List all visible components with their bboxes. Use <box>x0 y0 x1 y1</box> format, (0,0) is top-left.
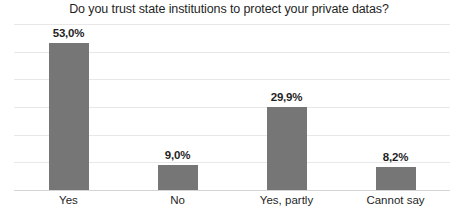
bar[interactable] <box>267 107 307 190</box>
bar-value-label: 9,0% <box>165 149 190 161</box>
bar-group: 29,9% <box>232 24 341 190</box>
bar-group: 9,0% <box>123 24 232 190</box>
bar-value-label: 53,0% <box>53 27 85 39</box>
x-axis-line <box>14 190 450 191</box>
bar-group: 53,0% <box>14 24 123 190</box>
category-label-cannot-say: Cannot say <box>341 194 450 206</box>
bar-chart: Do you trust state institutions to prote… <box>0 0 458 221</box>
bar-value-label: 29,9% <box>271 91 303 103</box>
bar[interactable] <box>158 165 198 190</box>
bars-layer: 53,0% 9,0% 29,9% 8,2% <box>14 24 450 190</box>
category-label-no: No <box>123 194 232 206</box>
bar[interactable] <box>49 43 89 190</box>
chart-title: Do you trust state institutions to prote… <box>0 2 458 16</box>
category-label-yes-partly: Yes, partly <box>232 194 341 206</box>
bar-value-label: 8,2% <box>383 151 408 163</box>
bar-group: 8,2% <box>341 24 450 190</box>
bar[interactable] <box>376 167 416 190</box>
category-label-yes: Yes <box>14 194 123 206</box>
category-axis-labels: Yes No Yes, partly Cannot say <box>14 194 450 216</box>
